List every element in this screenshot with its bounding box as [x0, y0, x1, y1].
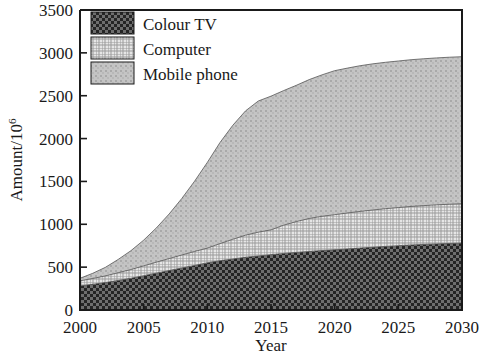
y-axis-title-base: Amount/10 [7, 124, 26, 201]
x-tick-label: 2025 [381, 318, 415, 337]
y-tick-label: 3000 [39, 44, 73, 63]
y-axis-ticks [80, 10, 87, 310]
plot-area [80, 57, 462, 310]
y-axis-title: Amount/106 [6, 118, 26, 201]
legend-label-computer: Computer [143, 40, 211, 59]
y-tick-label: 3500 [39, 1, 73, 20]
y-tick-label: 1500 [39, 172, 73, 191]
y-tick-label: 2000 [39, 130, 73, 149]
x-tick-label: 2005 [127, 318, 161, 337]
legend-swatch-computer [91, 37, 134, 59]
legend-swatch-colour-tv [91, 12, 134, 34]
y-axis-tick-labels: 0500100015002000250030003500 [39, 1, 73, 320]
chart-legend: Colour TV Computer Mobile phone [91, 12, 238, 84]
legend-swatch-mobile-phone [91, 62, 134, 84]
x-axis-title: Year [255, 336, 287, 355]
chart-canvas: 0500100015002000250030003500 20002005201… [0, 0, 493, 358]
stacked-area-chart-figure: 0500100015002000250030003500 20002005201… [0, 0, 493, 358]
legend-label-colour-tv: Colour TV [143, 15, 218, 34]
legend-label-mobile-phone: Mobile phone [143, 65, 238, 84]
x-tick-label: 2010 [190, 318, 224, 337]
y-tick-label: 2500 [39, 87, 73, 106]
y-tick-label: 1000 [39, 215, 73, 234]
x-tick-label: 2000 [63, 318, 97, 337]
svg-text:Amount/106: Amount/106 [6, 118, 26, 201]
x-tick-label: 2015 [254, 318, 288, 337]
y-axis-title-exponent: 6 [6, 118, 18, 124]
x-tick-label: 2030 [445, 318, 479, 337]
x-axis-tick-labels: 2000200520102015202020252030 [63, 318, 479, 337]
x-tick-label: 2020 [318, 318, 352, 337]
y-tick-label: 500 [48, 258, 74, 277]
